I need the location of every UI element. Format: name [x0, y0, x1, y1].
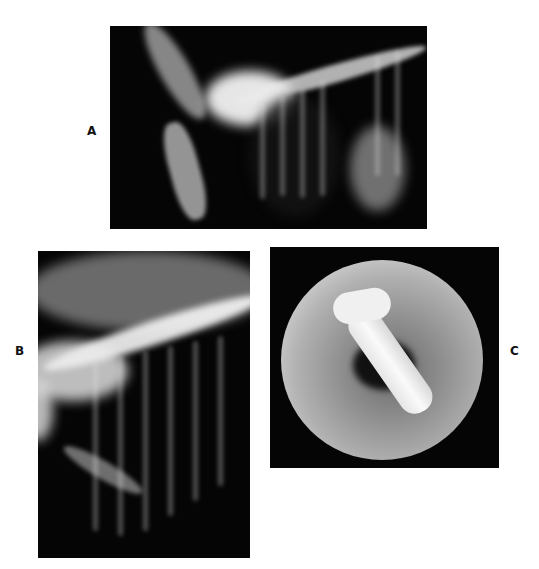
panel-label-b: B: [15, 344, 24, 358]
radiograph-panel-b: [38, 251, 250, 558]
endoscope-view: [281, 260, 483, 460]
radiograph-panel-a: [110, 26, 427, 229]
panel-label-a: A: [87, 124, 96, 138]
endoscopy-panel-c: [270, 247, 499, 468]
panel-label-c: C: [510, 344, 519, 358]
